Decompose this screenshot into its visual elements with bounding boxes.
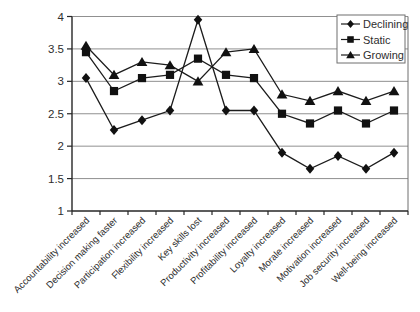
series-marker-growing [277,89,288,98]
legend-label-static: Static [363,34,391,46]
series-marker-static [250,74,258,82]
y-tick-label: 2.5 [48,108,64,120]
series-marker-static [306,119,314,127]
y-tick-label: 1 [58,205,64,217]
series-marker-declining [362,164,371,174]
y-tick-label: 2 [58,140,64,152]
series-marker-static [222,71,230,79]
series-marker-growing [137,57,148,66]
legend-group: DecliningStaticGrowing [337,15,408,63]
series-marker-static [110,87,118,95]
legend-label-declining: Declining [363,18,408,30]
series-marker-static [166,71,174,79]
y-tick-label: 3.5 [48,43,64,55]
series-marker-static [334,106,342,114]
series-marker-static [194,55,202,63]
legend-label-growing: Growing [363,49,404,61]
series-marker-growing [389,86,400,95]
y-tick-label: 3 [58,75,64,87]
y-tick-labels-group: 11.522.533.54 [48,11,65,218]
x-category-labels-group: Accountability increasedDecision making … [11,214,399,294]
series-marker-growing [81,41,92,50]
legend-marker-static [347,36,354,43]
line-chart-figure: 11.522.533.54 Accountability increasedDe… [0,0,420,312]
series-marker-declining [110,125,119,135]
series-marker-growing [333,86,344,95]
series-marker-static [390,106,398,114]
y-tick-label: 4 [58,11,65,23]
series-marker-growing [361,96,372,105]
series-marker-static [278,110,286,118]
series-marker-static [138,74,146,82]
series-marker-declining [138,115,147,125]
series-marker-declining [390,148,399,158]
chart-svg: 11.522.533.54 Accountability increasedDe… [0,0,420,312]
series-marker-static [362,119,370,127]
series-marker-declining [306,164,315,174]
y-tick-label: 1.5 [48,173,64,185]
series-marker-declining [334,151,343,161]
